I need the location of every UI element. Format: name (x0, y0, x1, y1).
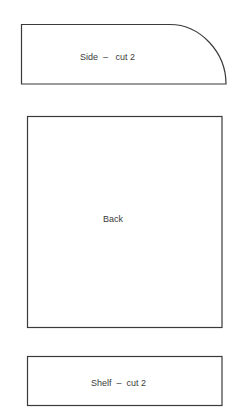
cutting-pattern-diagram: Side – cut 2 Back Shelf – cut 2 (0, 0, 241, 411)
back-piece-label: Back (103, 214, 124, 224)
back-piece-outline (28, 117, 223, 328)
shelf-piece-label: Shelf – cut 2 (91, 378, 146, 388)
side-piece-label: Side – cut 2 (80, 52, 135, 62)
